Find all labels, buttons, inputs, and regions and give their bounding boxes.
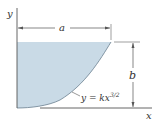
arrow-down-icon (132, 102, 135, 107)
dimension-a-label: a (59, 22, 65, 33)
curve-equation: y = kx3/2 (80, 91, 120, 103)
arrow-right-icon (105, 27, 110, 30)
curve-equation-base: y = kx (80, 93, 110, 103)
curve-equation-exponent: 3/2 (110, 91, 120, 98)
area-diagram: a b y x y = kx3/2 (0, 0, 164, 122)
arrow-up-icon (132, 43, 135, 48)
y-axis-label: y (6, 8, 13, 19)
arrow-left-icon (18, 27, 23, 30)
equation-leader-line (72, 92, 80, 96)
x-axis-label: x (146, 110, 152, 121)
dimension-b-label: b (129, 69, 136, 82)
